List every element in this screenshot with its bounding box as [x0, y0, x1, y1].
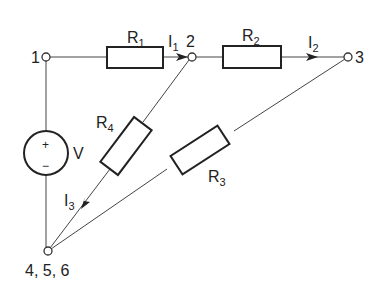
resistor-r1: R1: [107, 29, 163, 68]
svg-text:3: 3: [355, 49, 364, 66]
svg-text:R3: R3: [208, 168, 226, 188]
svg-text:R4: R4: [96, 114, 114, 134]
resistor-r4: R4: [96, 114, 152, 175]
node-3: 3: [344, 49, 364, 66]
circuit-diagram: R1 R2 R4 R3 + − V I1 I2 I3 1 2: [0, 0, 384, 292]
node-2: 2: [186, 33, 196, 61]
resistor-r3: R3: [171, 126, 230, 188]
current-i3: I3: [64, 192, 90, 212]
resistor-r2: R2: [223, 27, 281, 68]
svg-text:I1: I1: [168, 33, 179, 53]
svg-text:I2: I2: [308, 34, 319, 54]
svg-text:4, 5, 6: 4, 5, 6: [25, 262, 70, 279]
node-1: 1: [31, 49, 50, 66]
voltage-source: + − V: [24, 131, 84, 175]
svg-text:1: 1: [31, 49, 40, 66]
minus-sign: −: [42, 159, 49, 173]
plus-sign: +: [42, 138, 49, 152]
arrow-down-left-icon: [81, 197, 90, 209]
source-label: V: [73, 145, 84, 162]
svg-text:2: 2: [186, 33, 195, 50]
svg-text:R2: R2: [242, 27, 260, 47]
svg-text:I3: I3: [64, 192, 75, 212]
node-ground: 4, 5, 6: [25, 247, 70, 279]
